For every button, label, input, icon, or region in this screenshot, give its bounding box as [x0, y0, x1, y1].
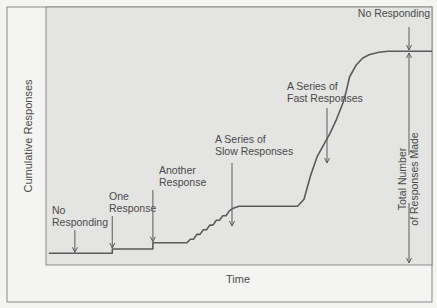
one-response-label-line: One	[109, 190, 129, 202]
total-responses-label-line: of Responses Made	[408, 132, 420, 226]
no-responding-start-label-line: No	[52, 204, 66, 216]
cumulative-record-diagram: Cumulative Responses Time NoRespondingOn…	[0, 0, 437, 308]
total-responses-label-line: Total Number	[396, 147, 408, 210]
one-response-label-line: Response	[109, 202, 156, 214]
fast-responses-label-line: A Series of	[287, 80, 338, 92]
no-responding-end-label-line: No Responding	[358, 7, 431, 19]
y-axis-label: Cumulative Responses	[22, 79, 34, 193]
another-response-label-line: Response	[159, 176, 206, 188]
x-axis-label: Time	[226, 273, 250, 285]
no-responding-end-label: No Responding	[358, 7, 431, 19]
slow-responses-label-line: A Series of	[215, 133, 266, 145]
fast-responses-label-line: Fast Responses	[287, 92, 363, 104]
slow-responses-label-line: Slow Responses	[215, 145, 293, 157]
no-responding-start-label-line: Responding	[52, 216, 108, 228]
another-response-label-line: Another	[159, 164, 196, 176]
